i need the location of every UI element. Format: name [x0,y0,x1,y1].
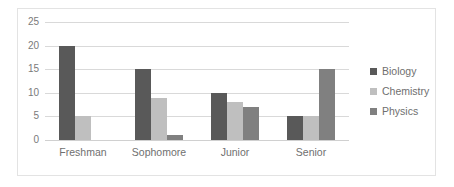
legend-item-label: Physics [382,106,418,117]
bar[interactable] [75,116,91,140]
x-axis-category-label: Sophomore [132,147,186,158]
legend-swatch-icon [370,68,377,75]
y-axis-tick-label: 5 [33,111,39,121]
bar[interactable] [151,98,167,140]
plot-area: 0510152025 FreshmanSophomoreJuniorSenior [45,22,349,140]
legend-swatch-icon [370,108,377,115]
bar[interactable] [167,135,183,140]
legend-item-chemistry[interactable]: Chemistry [370,81,440,101]
bar-group [135,22,183,140]
chart-container: 0510152025 FreshmanSophomoreJuniorSenior… [17,8,436,176]
bar-series-layer [45,22,349,140]
gridline [45,140,349,141]
bar-group [211,22,259,140]
bar[interactable] [211,93,227,140]
bar[interactable] [319,69,335,140]
y-axis-tick-label: 0 [33,135,39,145]
x-axis-category-label: Freshman [59,147,106,158]
legend-item-biology[interactable]: Biology [370,61,440,81]
bar[interactable] [59,46,75,140]
x-axis-category-label: Senior [296,147,326,158]
legend-item-physics[interactable]: Physics [370,101,440,121]
chart-legend: BiologyChemistryPhysics [370,61,440,121]
x-axis-category-label: Junior [221,147,250,158]
legend-item-label: Biology [382,66,416,77]
bar[interactable] [303,116,319,140]
y-axis-tick-label: 20 [28,41,39,51]
y-axis-tick-label: 25 [28,17,39,27]
legend-item-label: Chemistry [382,86,429,97]
bar[interactable] [135,69,151,140]
y-axis-tick-label: 15 [28,64,39,74]
legend-swatch-icon [370,88,377,95]
bar[interactable] [287,116,303,140]
bar-group [287,22,335,140]
bar[interactable] [227,102,243,140]
bar[interactable] [243,107,259,140]
y-axis-tick-label: 10 [28,88,39,98]
bar-group [59,22,107,140]
